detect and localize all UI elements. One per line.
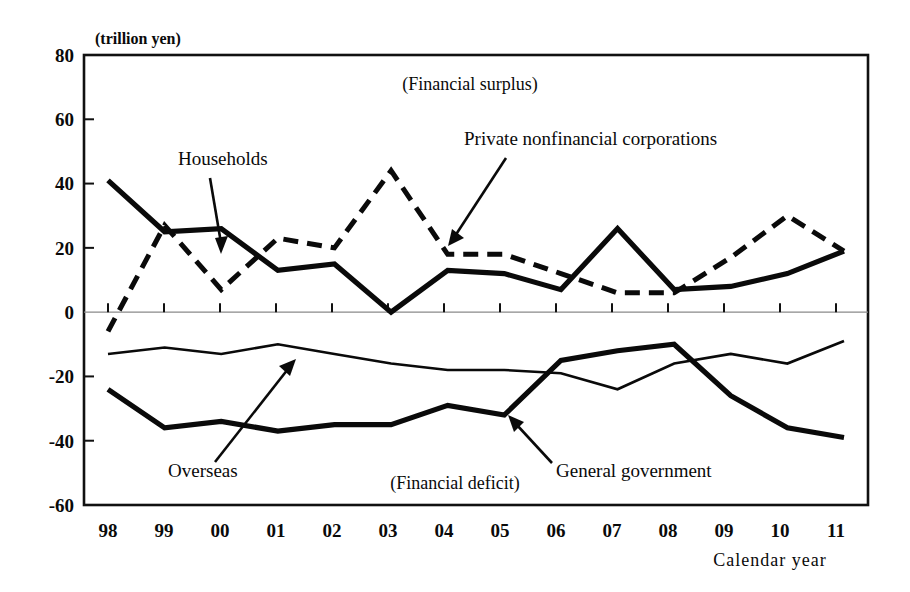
x-tick-marks: [108, 303, 836, 312]
financial-deficit-label: (Financial deficit): [390, 473, 519, 494]
annotation-label-general-government: General government: [556, 460, 712, 481]
chart-svg: 80 60 40 20 0 -20 -40 -60: [0, 0, 910, 592]
arrow-head-icon: [448, 229, 464, 246]
y-tick-label: 60: [55, 109, 74, 130]
series-line-overseas: [108, 341, 844, 389]
x-tick-label: 01: [267, 520, 286, 541]
x-tick-label: 08: [659, 520, 678, 541]
x-tick-label: 04: [435, 520, 455, 541]
x-tick-label: 06: [547, 520, 566, 541]
y-tick-label: 0: [65, 302, 75, 323]
annotation-label-private-nonfinancial-corporations: Private nonfinancial corporations: [464, 128, 717, 149]
x-tick-label: 09: [715, 520, 734, 541]
x-tick-label: 00: [211, 520, 230, 541]
y-tick-label: 80: [55, 45, 74, 66]
annotation-label-overseas: Overseas: [168, 460, 238, 481]
y-axis-unit-label: (trillion yen): [95, 30, 181, 48]
series-line-private-nonfinancial-corporations: [108, 171, 844, 332]
y-tick-label: 20: [55, 238, 74, 259]
x-tick-label: 11: [827, 520, 845, 541]
x-tick-label: 07: [603, 520, 623, 541]
arrow-head-icon: [279, 359, 296, 376]
annotation-general-government: General government: [508, 415, 712, 481]
y-tick-marks: [84, 55, 94, 505]
x-axis-tick-labels: 98 99 00 01 02 03 04 05 06 07 08 09 10 1…: [99, 520, 845, 541]
x-tick-label: 02: [323, 520, 342, 541]
x-axis-caption: Calendar year: [713, 550, 826, 570]
series-line-general-government: [108, 344, 844, 437]
y-axis-tick-labels: 80 60 40 20 0 -20 -40 -60: [49, 45, 74, 516]
x-tick-label: 98: [99, 520, 118, 541]
x-tick-label: 03: [379, 520, 398, 541]
x-tick-label: 05: [491, 520, 510, 541]
series-layer: [108, 171, 844, 438]
y-tick-label: 40: [55, 173, 74, 194]
x-tick-label: 99: [155, 520, 174, 541]
financial-balance-chart: 80 60 40 20 0 -20 -40 -60: [0, 0, 910, 592]
arrow-head-icon: [215, 236, 228, 254]
financial-surplus-label: (Financial surplus): [402, 74, 537, 95]
annotation-private-nonfinancial-corporations: Private nonfinancial corporations: [448, 128, 717, 246]
annotation-households: Households: [178, 148, 268, 254]
annotation-overseas: Overseas: [168, 359, 296, 481]
y-tick-label: -40: [49, 431, 74, 452]
x-tick-label: 10: [771, 520, 790, 541]
y-tick-label: -60: [49, 495, 74, 516]
annotation-label-households: Households: [178, 148, 268, 169]
y-tick-label: -20: [49, 366, 74, 387]
